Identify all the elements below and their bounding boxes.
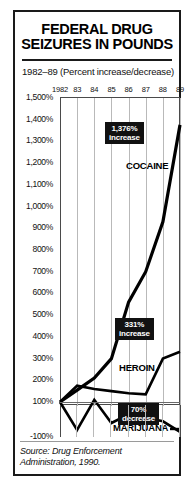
axis-ext-right bbox=[180, 405, 181, 437]
gridline-ext-87 bbox=[145, 405, 146, 437]
source-divider bbox=[20, 441, 174, 442]
gridline-ext-83 bbox=[76, 405, 77, 437]
series-label-marijuana: MARIJUANA bbox=[113, 422, 168, 433]
gridline-ext-84 bbox=[93, 405, 94, 437]
callout-cocaine: 1,376% increase bbox=[105, 122, 144, 144]
series-lines bbox=[0, 0, 194, 489]
gridline-ext-85 bbox=[110, 405, 111, 437]
source-note: Source: Drug Enforcement Administration,… bbox=[20, 446, 170, 468]
axis-ext-left bbox=[60, 405, 61, 437]
series-label-heroin: HEROIN bbox=[119, 362, 155, 373]
callout-heroin: 331% increase bbox=[115, 318, 154, 340]
gridline-ext-86 bbox=[128, 405, 129, 437]
series-label-cocaine: COCAINE bbox=[126, 160, 168, 171]
callout-cocaine-line2: increase bbox=[109, 133, 140, 142]
callout-cocaine-line1: 1,376% bbox=[111, 124, 137, 133]
callout-heroin-line2: increase bbox=[119, 329, 150, 338]
line-heroin bbox=[60, 352, 180, 402]
callout-heroin-line1: 331% bbox=[125, 320, 145, 329]
chart-plot-area: 1,500%1,400%1,300%1,200%1,100%1,000%900%… bbox=[0, 0, 194, 489]
baseline-100 bbox=[60, 402, 180, 403]
gridline-ext-88 bbox=[162, 405, 163, 437]
